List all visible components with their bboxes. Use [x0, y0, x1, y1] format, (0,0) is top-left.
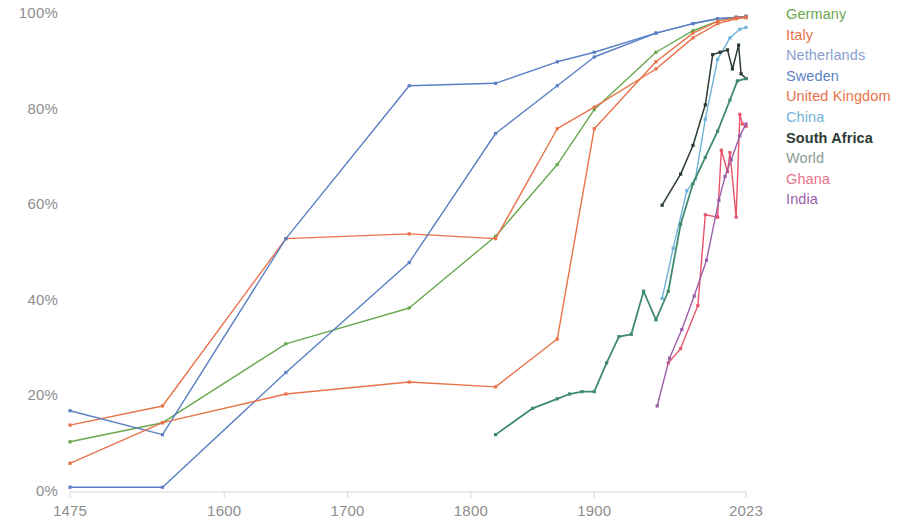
series-point [68, 409, 71, 412]
series-point [667, 290, 670, 293]
y-tick-label: 60% [0, 195, 58, 212]
series-point [408, 380, 411, 383]
series-point [494, 385, 497, 388]
series-point [738, 28, 741, 31]
series-point [716, 20, 719, 23]
chart-legend: GermanyItalyNetherlandsSwedenUnited King… [786, 4, 899, 210]
x-tick-label: 2023 [701, 502, 791, 519]
series-point [705, 259, 708, 262]
series-point [556, 163, 559, 166]
series-point [494, 132, 497, 135]
series-point [661, 204, 664, 207]
series-line [496, 79, 746, 435]
legend-item-china[interactable]: China [786, 107, 899, 128]
series-point [161, 433, 164, 436]
series-point [605, 361, 608, 364]
chart-page: 0%20%40%60%80%100% 147516001700180019002… [0, 0, 899, 521]
series-point [728, 151, 731, 154]
series-point [728, 36, 731, 39]
series-point [408, 84, 411, 87]
series-point [737, 43, 740, 46]
series-point [656, 404, 659, 407]
legend-item-germany[interactable]: Germany [786, 4, 899, 25]
series-point [718, 51, 721, 54]
series-point [630, 333, 633, 336]
series-world [494, 77, 748, 436]
series-point [68, 486, 71, 489]
series-point [556, 60, 559, 63]
legend-item-italy[interactable]: Italy [786, 25, 899, 46]
legend-item-india[interactable]: India [786, 189, 899, 210]
series-point [691, 22, 694, 25]
series-point [744, 15, 747, 18]
series-point [161, 421, 164, 424]
legend-item-south-africa[interactable]: South Africa [786, 128, 899, 149]
series-point [580, 390, 583, 393]
series-point [617, 335, 620, 338]
series-point [720, 149, 723, 152]
series-point [593, 127, 596, 130]
series-point [161, 486, 164, 489]
series-point [680, 328, 683, 331]
series-point [672, 247, 675, 250]
y-tick-label: 100% [0, 4, 58, 21]
series-point [661, 297, 664, 300]
series-point [716, 130, 719, 133]
series-point [556, 397, 559, 400]
series-point [704, 118, 707, 121]
y-tick-label: 0% [0, 482, 58, 499]
series-point [494, 82, 497, 85]
series-point [696, 304, 699, 307]
y-tick-label: 80% [0, 100, 58, 117]
x-tick-label: 1900 [549, 502, 639, 519]
series-point [704, 213, 707, 216]
series-line [70, 16, 746, 434]
line-chart-canvas [0, 0, 899, 521]
series-point [68, 423, 71, 426]
series-point [654, 318, 657, 321]
series-point [494, 237, 497, 240]
series-point [738, 134, 741, 137]
series-point [731, 67, 734, 70]
x-tick-label: 1600 [179, 502, 269, 519]
legend-item-netherlands[interactable]: Netherlands [786, 45, 899, 66]
x-tick-label: 1800 [426, 502, 516, 519]
series-point [68, 462, 71, 465]
series-point [284, 371, 287, 374]
series-point [723, 175, 726, 178]
legend-item-ghana[interactable]: Ghana [786, 169, 899, 190]
series-point [735, 216, 738, 219]
series-point [735, 16, 738, 19]
series-point [161, 404, 164, 407]
series-point [744, 122, 747, 125]
series-point [679, 347, 682, 350]
x-tick-label: 1475 [25, 502, 115, 519]
series-point [744, 77, 747, 80]
series-point [593, 390, 596, 393]
series-point [716, 58, 719, 61]
series-point [739, 72, 742, 75]
series-point [691, 36, 694, 39]
series-point [668, 357, 671, 360]
series-point [691, 144, 694, 147]
series-point [284, 342, 287, 345]
series-point [556, 337, 559, 340]
legend-item-world[interactable]: World [786, 148, 899, 169]
series-line [70, 16, 746, 441]
x-tick-label: 1700 [303, 502, 393, 519]
series-point [408, 232, 411, 235]
series-point [68, 440, 71, 443]
legend-item-united-kingdom[interactable]: United Kingdom [786, 86, 899, 107]
series-point [593, 55, 596, 58]
y-tick-label: 40% [0, 291, 58, 308]
series-point [691, 182, 694, 185]
series-point [654, 51, 657, 54]
series-point [679, 223, 682, 226]
legend-item-sweden[interactable]: Sweden [786, 66, 899, 87]
series-point [704, 103, 707, 106]
series-point [711, 53, 714, 56]
series-netherlands [68, 15, 747, 436]
series-italy [68, 16, 747, 426]
series-point [738, 113, 741, 116]
series-point [494, 433, 497, 436]
